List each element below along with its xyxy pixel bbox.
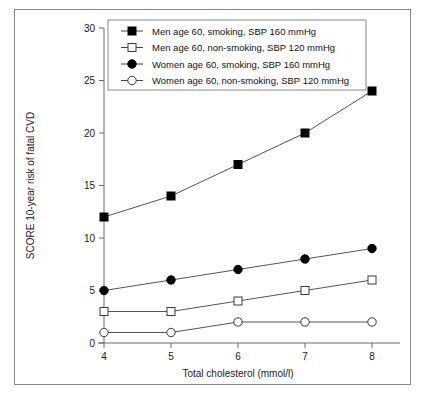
- x-tick-label-6: 6: [235, 351, 241, 362]
- legend-marker-1: [128, 44, 136, 52]
- series-line-0: [104, 91, 372, 217]
- y-axis-title: SCORE 10-year risk of fatal CVD: [25, 112, 36, 259]
- x-axis-title: Total cholesterol (mmol/l): [182, 368, 293, 379]
- x-tick-label-4: 4: [101, 351, 107, 362]
- data-point-0-0: [100, 213, 108, 221]
- score-risk-chart: 05101520253045678Total cholesterol (mmol…: [0, 0, 425, 399]
- series-line-1: [104, 280, 372, 312]
- data-point-3-0: [100, 328, 108, 336]
- x-tick-label-8: 8: [369, 351, 375, 362]
- y-tick-label-10: 10: [84, 233, 96, 244]
- x-tick-label-5: 5: [168, 351, 174, 362]
- data-point-0-2: [234, 161, 242, 169]
- data-point-1-2: [234, 297, 242, 305]
- chart-svg: 05101520253045678Total cholesterol (mmol…: [0, 0, 425, 399]
- data-point-2-0: [100, 286, 108, 294]
- legend-label-1: Men age 60, non-smoking, SBP 120 mmHg: [152, 42, 335, 53]
- y-tick-label-0: 0: [89, 338, 95, 349]
- legend-label-2: Women age 60, smoking, SBP 160 mmHg: [152, 59, 330, 70]
- y-tick-label-25: 25: [84, 75, 96, 86]
- legend-group[interactable]: Men age 60, smoking, SBP 160 mmHgMen age…: [108, 20, 366, 90]
- y-tick-label-15: 15: [84, 180, 96, 191]
- data-point-0-4: [368, 87, 376, 95]
- data-point-2-1: [167, 276, 175, 284]
- series-2: [100, 244, 376, 294]
- legend-label-3: Women age 60, non-smoking, SBP 120 mmHg: [152, 75, 349, 86]
- legend-label-0: Men age 60, smoking, SBP 160 mmHg: [152, 26, 316, 37]
- data-point-2-2: [234, 265, 242, 273]
- x-tick-label-7: 7: [302, 351, 308, 362]
- data-point-2-4: [368, 244, 376, 252]
- data-point-3-1: [167, 328, 175, 336]
- y-tick-label-20: 20: [84, 128, 96, 139]
- data-point-3-2: [234, 318, 242, 326]
- data-point-3-3: [301, 318, 309, 326]
- data-point-1-3: [301, 287, 309, 295]
- y-tick-label-5: 5: [89, 285, 95, 296]
- data-point-1-0: [100, 308, 108, 316]
- data-point-2-3: [301, 255, 309, 263]
- series-3: [100, 318, 376, 337]
- series-1: [100, 276, 376, 316]
- series-0: [100, 87, 376, 221]
- data-point-1-1: [167, 308, 175, 316]
- data-point-0-1: [167, 192, 175, 200]
- legend-marker-3: [128, 76, 136, 84]
- series-group: [100, 87, 376, 337]
- data-point-3-4: [368, 318, 376, 326]
- legend-marker-2: [128, 60, 136, 68]
- data-point-1-4: [368, 276, 376, 284]
- legend-marker-0: [128, 27, 136, 35]
- y-tick-label-30: 30: [84, 23, 96, 34]
- data-point-0-3: [301, 129, 309, 137]
